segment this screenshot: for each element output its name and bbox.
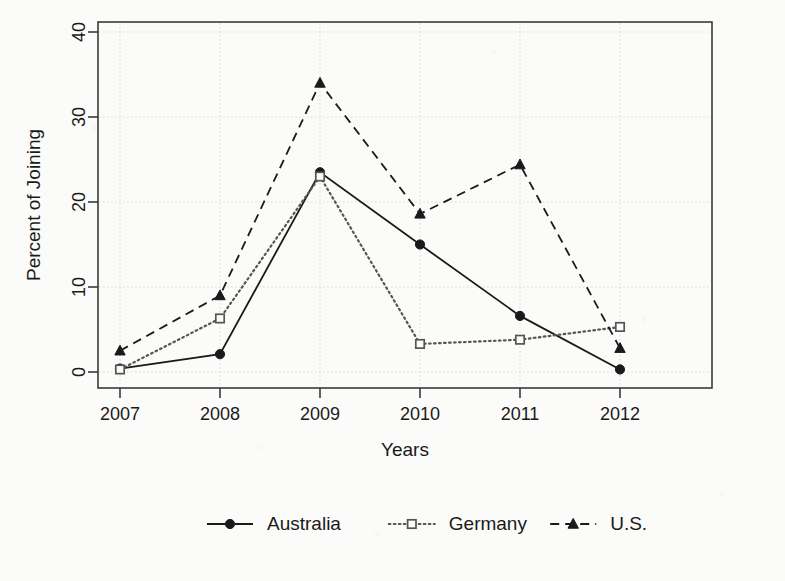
data-point	[415, 208, 425, 218]
legend-marker-australia	[225, 519, 234, 528]
legend-item-us[interactable]: U.S.	[550, 513, 647, 534]
series-australia	[115, 168, 624, 374]
y-tick-label-30: 30	[69, 107, 89, 127]
data-point	[416, 340, 424, 348]
data-point	[116, 365, 124, 373]
data-point	[316, 172, 324, 180]
legend-label-australia: Australia	[267, 513, 341, 534]
x-axis-ticks	[120, 388, 620, 398]
data-point	[216, 314, 224, 322]
x-tick-label-2007: 2007	[100, 404, 140, 424]
chart-legend: AustraliaGermanyU.S.	[207, 513, 647, 534]
y-axis-tick-labels: 010203040	[69, 22, 89, 377]
x-tick-label-2011: 2011	[501, 404, 540, 424]
line-chart: 010203040 200720082009201020112012 Years…	[0, 0, 785, 581]
y-tick-label-10: 10	[69, 277, 89, 297]
y-axis-ticks	[88, 32, 98, 372]
horizontal-gridlines	[99, 32, 711, 372]
x-tick-label-2012: 2012	[600, 404, 640, 424]
data-point	[516, 336, 524, 344]
plot-area-border	[98, 22, 712, 388]
series-u-s	[115, 77, 625, 355]
y-tick-label-40: 40	[69, 22, 89, 42]
x-tick-label-2010: 2010	[400, 404, 440, 424]
x-tick-label-2009: 2009	[300, 404, 340, 424]
x-axis-tick-labels: 200720082009201020112012	[100, 404, 640, 424]
data-series-group	[115, 77, 625, 374]
y-tick-label-0: 0	[69, 367, 89, 377]
legend-label-germany: Germany	[449, 513, 528, 534]
vertical-gridlines	[120, 23, 620, 387]
series-germany	[116, 172, 624, 373]
series-line	[120, 83, 620, 351]
legend-label-us: U.S.	[610, 513, 647, 534]
chart-page: 010203040 200720082009201020112012 Years…	[0, 0, 785, 581]
data-point	[515, 159, 525, 169]
legend-item-germany[interactable]: Germany	[389, 513, 528, 534]
data-point	[615, 343, 625, 353]
data-point	[315, 77, 325, 87]
legend-item-australia[interactable]: Australia	[207, 513, 341, 534]
x-tick-label-2008: 2008	[200, 404, 240, 424]
data-point	[515, 311, 524, 320]
legend-marker-germany	[408, 520, 416, 528]
data-point	[115, 345, 125, 355]
data-point	[616, 323, 624, 331]
data-point	[215, 350, 224, 359]
data-point	[215, 290, 225, 300]
y-axis-title: Percent of Joining	[23, 129, 44, 281]
y-tick-label-20: 20	[69, 192, 89, 212]
data-point	[615, 365, 624, 374]
data-point	[415, 240, 424, 249]
series-line	[120, 177, 620, 370]
x-axis-title: Years	[381, 439, 429, 460]
